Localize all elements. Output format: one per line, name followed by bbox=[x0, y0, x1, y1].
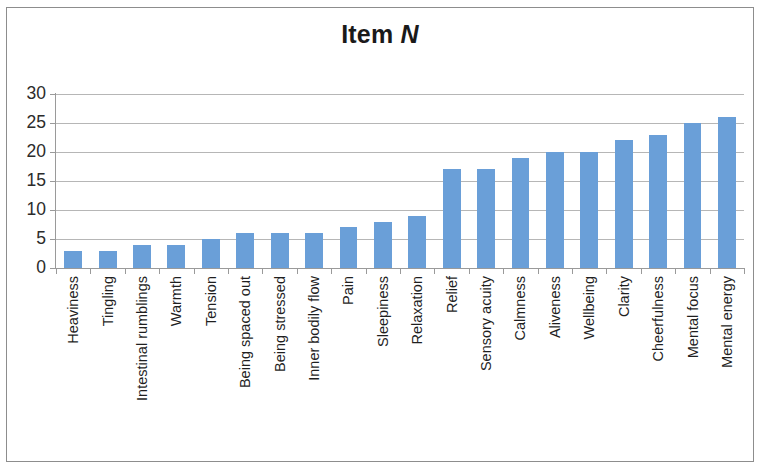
bar[interactable] bbox=[649, 135, 667, 268]
bar-slot bbox=[503, 94, 537, 268]
x-axis-category-label: Pain bbox=[341, 276, 356, 305]
x-label-slot: Clarity bbox=[607, 276, 641, 446]
bar-slot bbox=[607, 94, 641, 268]
bar[interactable] bbox=[133, 245, 151, 268]
bar-slot bbox=[366, 94, 400, 268]
bar[interactable] bbox=[64, 251, 82, 268]
x-tick-mark bbox=[710, 268, 711, 274]
x-label-slot: Relaxation bbox=[400, 276, 434, 446]
x-axis-category-label: Cheerfulness bbox=[651, 276, 666, 361]
bar-slot bbox=[262, 94, 296, 268]
x-tick-mark bbox=[641, 268, 642, 274]
bar-slot bbox=[194, 94, 228, 268]
bar[interactable] bbox=[477, 169, 495, 268]
bar[interactable] bbox=[718, 117, 736, 268]
x-tick-mark bbox=[366, 268, 367, 274]
x-tick-mark bbox=[262, 268, 263, 274]
x-label-slot: Relief bbox=[434, 276, 468, 446]
x-label-slot: Heaviness bbox=[56, 276, 90, 446]
bar[interactable] bbox=[167, 245, 185, 268]
x-axis-category-label: Inner bodily flow bbox=[307, 276, 322, 381]
x-label-slot: Cheerfulness bbox=[641, 276, 675, 446]
bar[interactable] bbox=[615, 140, 633, 268]
x-axis-category-label: Relaxation bbox=[410, 276, 425, 345]
bar-slot bbox=[400, 94, 434, 268]
y-axis-tick-label: 30 bbox=[6, 85, 46, 103]
bar[interactable] bbox=[546, 152, 564, 268]
x-label-slot: Intestinal rumblings bbox=[125, 276, 159, 446]
bar-slot bbox=[56, 94, 90, 268]
x-label-slot: Inner bodily flow bbox=[297, 276, 331, 446]
x-tick-mark bbox=[606, 268, 607, 274]
x-label-slot: Sensory acuity bbox=[469, 276, 503, 446]
bar[interactable] bbox=[408, 216, 426, 268]
bar[interactable] bbox=[580, 152, 598, 268]
x-label-slot: Mental energy bbox=[710, 276, 744, 446]
x-label-slot: Wellbeing bbox=[572, 276, 606, 446]
x-axis-ticks bbox=[56, 268, 744, 274]
bar-slot bbox=[159, 94, 193, 268]
x-label-slot: Warmth bbox=[159, 276, 193, 446]
x-tick-mark bbox=[56, 268, 57, 274]
x-label-slot: Tingling bbox=[90, 276, 124, 446]
x-tick-mark bbox=[90, 268, 91, 274]
x-axis-category-label: Warmth bbox=[169, 276, 184, 326]
x-axis-labels: HeavinessTinglingIntestinal rumblingsWar… bbox=[56, 276, 744, 446]
bar[interactable] bbox=[305, 233, 323, 268]
y-axis-tick-label: 10 bbox=[6, 201, 46, 219]
x-tick-mark bbox=[503, 268, 504, 274]
bar-slot bbox=[469, 94, 503, 268]
bar-slot bbox=[710, 94, 744, 268]
x-tick-mark bbox=[572, 268, 573, 274]
x-tick-mark bbox=[297, 268, 298, 274]
bar-slot bbox=[434, 94, 468, 268]
x-tick-mark bbox=[744, 268, 745, 274]
x-axis-category-label: Clarity bbox=[616, 276, 631, 317]
bar[interactable] bbox=[512, 158, 530, 268]
bar-slot bbox=[641, 94, 675, 268]
bar[interactable] bbox=[236, 233, 254, 268]
x-axis-category-label: Aliveness bbox=[548, 276, 563, 338]
x-tick-mark bbox=[538, 268, 539, 274]
x-axis-category-label: Sleepiness bbox=[376, 276, 391, 347]
bar[interactable] bbox=[443, 169, 461, 268]
y-axis-tick-label: 15 bbox=[6, 172, 46, 190]
x-tick-mark bbox=[675, 268, 676, 274]
bar[interactable] bbox=[271, 233, 289, 268]
chart-title-main: Item bbox=[341, 20, 400, 48]
x-label-slot: Aliveness bbox=[538, 276, 572, 446]
x-axis-category-label: Wellbeing bbox=[582, 276, 597, 339]
y-axis-tick-label: 20 bbox=[6, 143, 46, 161]
bar-slot bbox=[572, 94, 606, 268]
figure-container: Item N 051015202530 HeavinessTinglingInt… bbox=[0, 0, 760, 473]
bar[interactable] bbox=[202, 239, 220, 268]
x-tick-mark bbox=[400, 268, 401, 274]
x-axis-category-label: Heaviness bbox=[66, 276, 81, 344]
x-label-slot: Mental focus bbox=[675, 276, 709, 446]
bar-slot bbox=[538, 94, 572, 268]
x-axis-category-label: Calmness bbox=[513, 276, 528, 340]
x-label-slot: Being spaced out bbox=[228, 276, 262, 446]
x-axis-category-label: Being stressed bbox=[272, 276, 287, 372]
bar[interactable] bbox=[374, 222, 392, 268]
x-tick-mark bbox=[125, 268, 126, 274]
y-axis-tick-label: 0 bbox=[6, 259, 46, 277]
bar[interactable] bbox=[340, 227, 358, 268]
bar[interactable] bbox=[99, 251, 117, 268]
bar-slot bbox=[228, 94, 262, 268]
chart-title-emphasis: N bbox=[401, 20, 419, 48]
bar-series bbox=[56, 94, 744, 268]
x-axis-category-label: Tingling bbox=[100, 276, 115, 326]
bar[interactable] bbox=[684, 123, 702, 268]
x-axis-category-label: Mental focus bbox=[685, 276, 700, 358]
x-label-slot: Pain bbox=[331, 276, 365, 446]
x-axis-category-label: Sensory acuity bbox=[479, 276, 494, 371]
x-tick-mark bbox=[159, 268, 160, 274]
x-axis-category-label: Being spaced out bbox=[238, 276, 253, 388]
x-tick-mark bbox=[469, 268, 470, 274]
x-tick-mark bbox=[228, 268, 229, 274]
x-tick-mark bbox=[331, 268, 332, 274]
y-axis-tick-label: 5 bbox=[6, 230, 46, 248]
y-axis-tick-label: 25 bbox=[6, 114, 46, 132]
x-axis-category-label: Relief bbox=[444, 276, 459, 313]
